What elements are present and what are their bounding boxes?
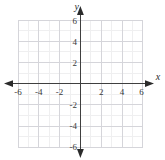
coordinate-plane-svg: -6 -4 -2 2 4 6 -6 -4 -2 2 4 6 x y xyxy=(0,0,165,160)
y-tick-label: -6 xyxy=(70,142,78,152)
y-tick-label: 4 xyxy=(73,37,78,47)
x-tick-label: -2 xyxy=(56,87,64,97)
y-tick-label: -4 xyxy=(70,121,78,131)
figure-background xyxy=(0,0,165,160)
x-tick-label: -6 xyxy=(14,87,22,97)
y-tick-label: 6 xyxy=(73,16,78,26)
coordinate-grid-figure: -6 -4 -2 2 4 6 -6 -4 -2 2 4 6 x y xyxy=(0,0,165,160)
x-axis-label: x xyxy=(155,71,161,82)
x-tick-label: -4 xyxy=(35,87,43,97)
x-tick-label: 4 xyxy=(120,87,125,97)
x-tick-label: 2 xyxy=(99,87,104,97)
y-axis-label: y xyxy=(74,1,80,12)
y-tick-label: -2 xyxy=(70,100,78,110)
y-tick-label: 2 xyxy=(73,58,78,68)
x-tick-label: 6 xyxy=(139,87,144,97)
